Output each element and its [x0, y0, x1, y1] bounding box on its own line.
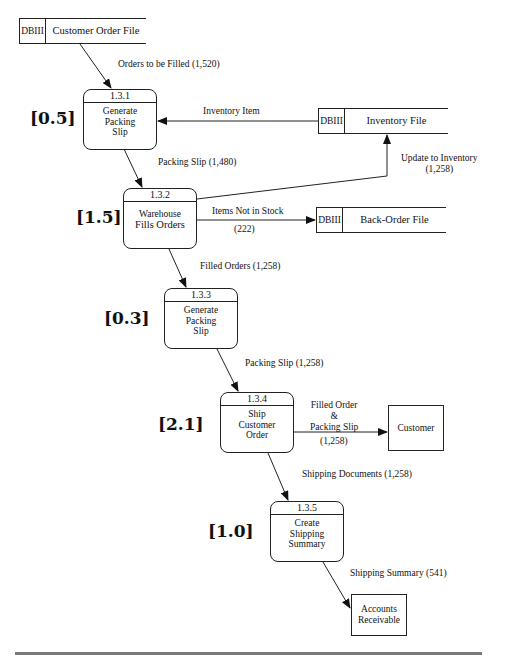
external-entity-accounts-receivable: Accounts Receivable	[351, 594, 407, 636]
process-label: Create Shipping Summary	[273, 518, 341, 550]
flow-label-update-to-inventory: Update to Inventory (1,258)	[401, 153, 478, 175]
process-label-line: Slip	[167, 326, 235, 337]
process-id: 1.3.3	[165, 289, 237, 302]
data-store-customer-order-file: DBIII Customer Order File	[19, 18, 146, 44]
process-label-line: Warehouse	[126, 209, 194, 220]
process-label-line: Customer	[223, 420, 291, 431]
process-label-line: Fills Orders	[126, 220, 194, 231]
flow-label-filled-order-packing-slip: Filled Order & Packing Slip	[310, 400, 358, 433]
process-id: 1.3.5	[271, 502, 343, 515]
entity-label-line: Receivable	[358, 615, 400, 626]
process-label-line: Slip	[86, 127, 154, 138]
flow-arrows-layer	[0, 0, 505, 662]
flow-arrow-shipping-summary	[323, 562, 350, 608]
process-label-line: Packing	[167, 316, 235, 327]
flow-label-inventory-item: Inventory Item	[203, 106, 260, 117]
process-id: 1.3.2	[124, 189, 196, 202]
store-name: Customer Order File	[46, 19, 146, 43]
process-1-3-2: 1.3.2 Warehouse Fills Orders	[123, 188, 197, 249]
flow-label-shipping-documents: Shipping Documents (1,258)	[302, 469, 412, 480]
flow-label-line: Filled Order	[310, 400, 358, 411]
flow-label-packing-slip-1258: Packing Slip (1,258)	[245, 358, 323, 369]
process-1-3-1: 1.3.1 Generate Packing Slip	[83, 89, 157, 150]
process-1-3-3: 1.3.3 Generate Packing Slip	[164, 288, 238, 349]
process-id: 1.3.4	[221, 393, 293, 406]
data-store-inventory-file: DBIII Inventory File	[318, 108, 448, 134]
process-label-line: Shipping	[273, 529, 341, 540]
store-tag: DBIII	[317, 208, 343, 232]
flow-label-line: (1,258)	[401, 164, 478, 175]
flow-arrow-shipping-documents	[268, 453, 288, 500]
process-id: 1.3.1	[84, 90, 156, 103]
process-label: Ship Customer Order	[223, 409, 291, 441]
time-estimate-1-3-5: [1.0]	[208, 521, 254, 541]
store-tag: DBIII	[20, 19, 46, 43]
flow-label-line: Packing Slip	[310, 422, 358, 433]
flow-arrow-packing-slip-1258	[217, 349, 238, 391]
flow-label-items-not-in-stock: Items Not in Stock	[212, 206, 284, 217]
store-tag: DBIII	[319, 109, 345, 133]
store-name: Back-Order File	[343, 208, 446, 232]
time-estimate-1-3-2: [1.5]	[76, 207, 122, 227]
data-store-back-order-file: DBIII Back-Order File	[316, 207, 446, 233]
process-label-line: Ship	[223, 409, 291, 420]
process-label-line: Generate	[86, 106, 154, 117]
entity-label-line: Accounts	[361, 604, 397, 615]
process-label-line: Packing	[86, 117, 154, 128]
store-name: Inventory File	[345, 109, 448, 133]
process-1-3-5: 1.3.5 Create Shipping Summary	[270, 501, 344, 562]
time-estimate-1-3-3: [0.3]	[104, 308, 150, 328]
process-label-line: Create	[273, 518, 341, 529]
flow-label-filled-order-count: (1,258)	[320, 436, 348, 447]
flow-label-line: &	[310, 411, 358, 422]
time-estimate-1-3-4: [2.1]	[158, 414, 204, 434]
process-label-line: Summary	[273, 539, 341, 550]
bottom-divider	[15, 652, 482, 655]
entity-label: Customer	[398, 423, 435, 434]
process-label-line: Generate	[167, 305, 235, 316]
flow-label-items-not-in-stock-count: (222)	[234, 224, 255, 235]
process-1-3-4: 1.3.4 Ship Customer Order	[220, 392, 294, 453]
flow-label-packing-slip-1480: Packing Slip (1,480)	[158, 157, 236, 168]
flow-label-orders-to-be-filled: Orders to be Filled (1,520)	[118, 59, 220, 70]
flow-arrow-orders-to-be-filled	[80, 44, 111, 88]
flow-label-line: Update to Inventory	[401, 153, 478, 164]
external-entity-customer: Customer	[388, 405, 444, 451]
flow-arrow-filled-orders	[169, 249, 186, 287]
flow-label-filled-orders: Filled Orders (1,258)	[200, 261, 280, 272]
process-label: Generate Packing Slip	[86, 106, 154, 138]
process-label: Warehouse Fills Orders	[126, 209, 194, 230]
flow-arrow-packing-slip-1480	[124, 149, 142, 187]
process-label: Generate Packing Slip	[167, 305, 235, 337]
flow-label-shipping-summary: Shipping Summary (541)	[350, 568, 447, 579]
process-label-line: Order	[223, 430, 291, 441]
time-estimate-1-3-1: [0.5]	[30, 108, 76, 128]
